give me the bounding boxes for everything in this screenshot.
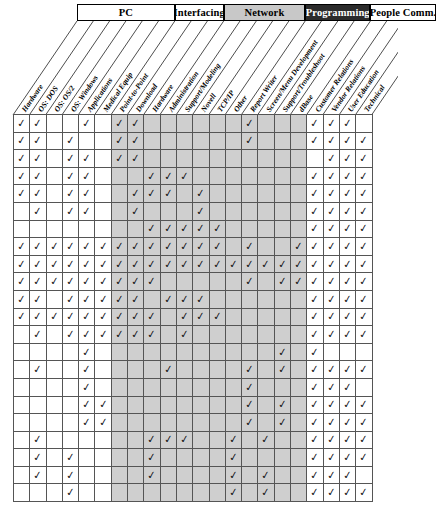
matrix-cell-checked[interactable]: ✓	[274, 273, 290, 291]
matrix-cell-checked[interactable]: ✓	[356, 150, 372, 168]
matrix-cell-checked[interactable]: ✓	[209, 308, 225, 326]
matrix-cell-empty[interactable]	[291, 466, 307, 484]
matrix-cell-empty[interactable]	[111, 484, 127, 502]
matrix-cell-empty[interactable]	[46, 449, 62, 467]
matrix-cell-checked[interactable]: ✓	[160, 238, 176, 256]
matrix-cell-empty[interactable]	[128, 449, 144, 467]
matrix-cell-empty[interactable]	[144, 484, 160, 502]
matrix-cell-checked[interactable]: ✓	[291, 255, 307, 273]
matrix-cell-empty[interactable]	[46, 150, 62, 168]
matrix-cell-checked[interactable]: ✓	[62, 202, 78, 220]
matrix-cell-empty[interactable]	[14, 466, 30, 484]
matrix-cell-checked[interactable]: ✓	[258, 431, 274, 449]
matrix-cell-empty[interactable]	[46, 361, 62, 379]
matrix-cell-checked[interactable]: ✓	[339, 326, 355, 344]
matrix-cell-empty[interactable]	[128, 414, 144, 432]
matrix-cell-checked[interactable]: ✓	[79, 273, 95, 291]
matrix-cell-empty[interactable]	[46, 185, 62, 203]
matrix-cell-empty[interactable]	[14, 431, 30, 449]
matrix-cell-checked[interactable]: ✓	[356, 132, 372, 150]
matrix-cell-empty[interactable]	[30, 343, 46, 361]
matrix-cell-checked[interactable]: ✓	[46, 308, 62, 326]
matrix-cell-empty[interactable]	[209, 185, 225, 203]
matrix-cell-empty[interactable]	[14, 484, 30, 502]
matrix-cell-empty[interactable]	[14, 361, 30, 379]
matrix-cell-empty[interactable]	[144, 202, 160, 220]
matrix-cell-empty[interactable]	[258, 290, 274, 308]
matrix-cell-checked[interactable]: ✓	[30, 150, 46, 168]
matrix-cell-checked[interactable]: ✓	[242, 238, 258, 256]
matrix-cell-checked[interactable]: ✓	[307, 431, 323, 449]
matrix-cell-empty[interactable]	[95, 185, 111, 203]
matrix-cell-checked[interactable]: ✓	[79, 414, 95, 432]
matrix-cell-empty[interactable]	[209, 431, 225, 449]
matrix-cell-checked[interactable]: ✓	[62, 185, 78, 203]
matrix-cell-empty[interactable]	[62, 378, 78, 396]
matrix-cell-empty[interactable]	[111, 185, 127, 203]
matrix-cell-checked[interactable]: ✓	[30, 202, 46, 220]
matrix-cell-empty[interactable]	[144, 378, 160, 396]
matrix-cell-empty[interactable]	[160, 273, 176, 291]
matrix-cell-empty[interactable]	[209, 466, 225, 484]
matrix-cell-empty[interactable]	[160, 202, 176, 220]
matrix-cell-empty[interactable]	[242, 202, 258, 220]
matrix-cell-empty[interactable]	[291, 185, 307, 203]
matrix-cell-checked[interactable]: ✓	[160, 185, 176, 203]
matrix-cell-empty[interactable]	[258, 185, 274, 203]
matrix-cell-checked[interactable]: ✓	[356, 326, 372, 344]
matrix-cell-empty[interactable]	[30, 220, 46, 238]
matrix-cell-checked[interactable]: ✓	[144, 466, 160, 484]
matrix-cell-checked[interactable]: ✓	[14, 150, 30, 168]
matrix-cell-empty[interactable]	[291, 361, 307, 379]
matrix-cell-checked[interactable]: ✓	[323, 220, 339, 238]
matrix-cell-checked[interactable]: ✓	[356, 484, 372, 502]
matrix-cell-empty[interactable]	[274, 220, 290, 238]
matrix-cell-checked[interactable]: ✓	[128, 185, 144, 203]
matrix-cell-checked[interactable]: ✓	[128, 308, 144, 326]
matrix-cell-checked[interactable]: ✓	[323, 185, 339, 203]
matrix-cell-empty[interactable]	[176, 466, 192, 484]
matrix-cell-empty[interactable]	[209, 449, 225, 467]
matrix-cell-checked[interactable]: ✓	[323, 255, 339, 273]
matrix-cell-checked[interactable]: ✓	[307, 115, 323, 133]
matrix-cell-empty[interactable]	[193, 396, 209, 414]
matrix-cell-empty[interactable]	[242, 343, 258, 361]
matrix-cell-checked[interactable]: ✓	[323, 308, 339, 326]
matrix-cell-empty[interactable]	[225, 150, 241, 168]
matrix-cell-empty[interactable]	[46, 202, 62, 220]
matrix-cell-empty[interactable]	[79, 466, 95, 484]
matrix-cell-checked[interactable]: ✓	[339, 185, 355, 203]
matrix-cell-empty[interactable]	[274, 132, 290, 150]
matrix-cell-checked[interactable]: ✓	[356, 396, 372, 414]
matrix-cell-empty[interactable]	[291, 378, 307, 396]
matrix-cell-checked[interactable]: ✓	[193, 290, 209, 308]
matrix-cell-empty[interactable]	[46, 431, 62, 449]
matrix-cell-checked[interactable]: ✓	[176, 255, 192, 273]
matrix-cell-empty[interactable]	[307, 150, 323, 168]
matrix-cell-checked[interactable]: ✓	[14, 255, 30, 273]
matrix-cell-empty[interactable]	[14, 449, 30, 467]
matrix-cell-checked[interactable]: ✓	[176, 220, 192, 238]
matrix-cell-empty[interactable]	[79, 132, 95, 150]
matrix-cell-empty[interactable]	[111, 378, 127, 396]
matrix-cell-empty[interactable]	[339, 343, 355, 361]
matrix-cell-checked[interactable]: ✓	[62, 449, 78, 467]
matrix-cell-checked[interactable]: ✓	[339, 396, 355, 414]
matrix-cell-empty[interactable]	[258, 361, 274, 379]
matrix-cell-checked[interactable]: ✓	[144, 273, 160, 291]
matrix-cell-checked[interactable]: ✓	[160, 290, 176, 308]
matrix-cell-empty[interactable]	[209, 378, 225, 396]
matrix-cell-checked[interactable]: ✓	[62, 466, 78, 484]
matrix-cell-checked[interactable]: ✓	[307, 466, 323, 484]
matrix-cell-checked[interactable]: ✓	[307, 308, 323, 326]
matrix-cell-checked[interactable]: ✓	[356, 308, 372, 326]
matrix-cell-checked[interactable]: ✓	[323, 273, 339, 291]
matrix-cell-empty[interactable]	[193, 431, 209, 449]
matrix-cell-empty[interactable]	[258, 150, 274, 168]
matrix-cell-empty[interactable]	[209, 202, 225, 220]
matrix-cell-empty[interactable]	[274, 308, 290, 326]
matrix-cell-checked[interactable]: ✓	[323, 361, 339, 379]
matrix-cell-empty[interactable]	[291, 290, 307, 308]
matrix-cell-checked[interactable]: ✓	[323, 150, 339, 168]
matrix-cell-checked[interactable]: ✓	[144, 238, 160, 256]
